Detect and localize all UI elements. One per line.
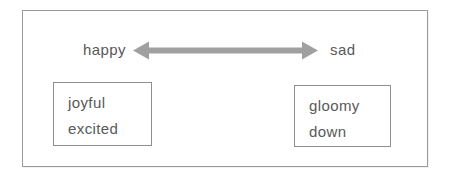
left-word-box: joyful excited bbox=[53, 82, 152, 146]
right-term-label: sad bbox=[330, 41, 355, 58]
double-headed-arrow-shape bbox=[133, 42, 318, 60]
left-box-word-1: joyful bbox=[68, 90, 151, 116]
diagram-frame: happy sad joyful excited gloomy down bbox=[22, 10, 428, 167]
left-term-label: happy bbox=[83, 41, 126, 58]
right-box-word-1: gloomy bbox=[309, 93, 390, 119]
left-box-word-2: excited bbox=[68, 116, 151, 142]
right-box-word-2: down bbox=[309, 119, 390, 145]
antonym-spectrum-diagram: happy sad joyful excited gloomy down bbox=[0, 0, 450, 176]
double-headed-arrow-icon bbox=[133, 41, 318, 60]
right-word-box: gloomy down bbox=[294, 85, 391, 147]
